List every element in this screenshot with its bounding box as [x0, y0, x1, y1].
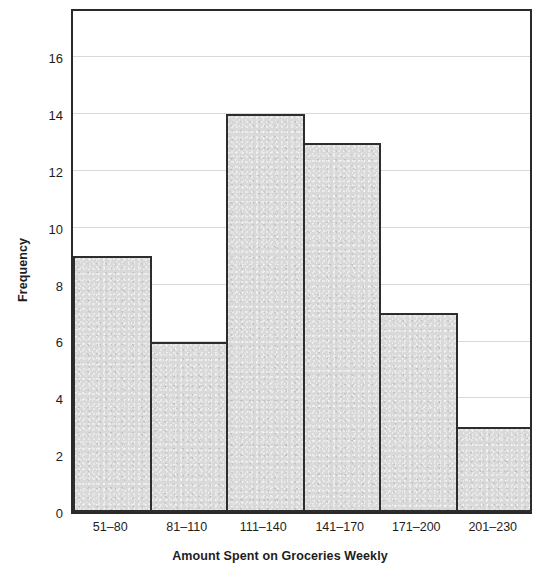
bar: [303, 143, 382, 512]
y-tick-label: 14: [23, 109, 63, 122]
bar: [150, 342, 229, 513]
y-tick-label: 0: [23, 507, 63, 520]
x-tick-label: 201–230: [443, 521, 543, 534]
y-tick-label: 2: [23, 450, 63, 463]
x-axis-title: Amount Spent on Groceries Weekly: [0, 549, 560, 563]
bar-series: [73, 11, 530, 512]
y-tick-label: 4: [23, 393, 63, 406]
y-tick-label: 16: [23, 52, 63, 65]
y-tick-label: 6: [23, 336, 63, 349]
bar: [73, 256, 152, 512]
y-tick-label: 10: [23, 222, 63, 235]
bar: [379, 313, 458, 512]
y-tick-label: 8: [23, 279, 63, 292]
bar: [226, 114, 305, 512]
y-axis-title: Frequency: [16, 200, 30, 340]
y-tick-label: 12: [23, 165, 63, 178]
histogram-figure: Frequency 0246810121416 51–8081–110111–1…: [0, 0, 560, 572]
plot-area: [71, 9, 532, 514]
bar: [456, 427, 533, 512]
